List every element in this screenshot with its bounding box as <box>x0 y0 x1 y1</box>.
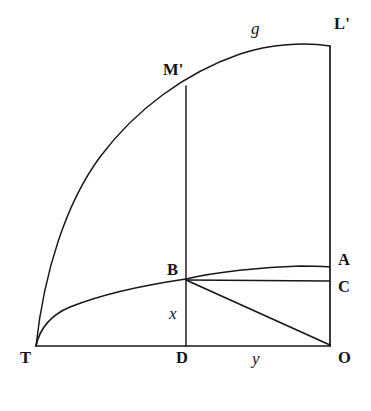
label-o: O <box>338 350 351 367</box>
segment-b-o <box>186 280 330 345</box>
label-y: y <box>252 350 260 367</box>
label-l-prime: L' <box>334 16 350 33</box>
label-m-prime: M' <box>163 62 184 79</box>
lower-curve-t-b <box>36 279 186 346</box>
label-g: g <box>251 20 260 37</box>
upper-curve-t-lprime <box>36 44 330 346</box>
label-a: A <box>338 252 350 269</box>
label-d: D <box>176 350 188 367</box>
curve-b-a <box>186 266 330 279</box>
figure-canvas: L'gM'ABCxTDyO <box>0 0 371 411</box>
label-b: B <box>167 262 178 279</box>
label-c: C <box>338 279 350 296</box>
label-x: x <box>169 305 177 322</box>
label-t: T <box>20 350 31 367</box>
segment-b-c <box>186 280 330 281</box>
